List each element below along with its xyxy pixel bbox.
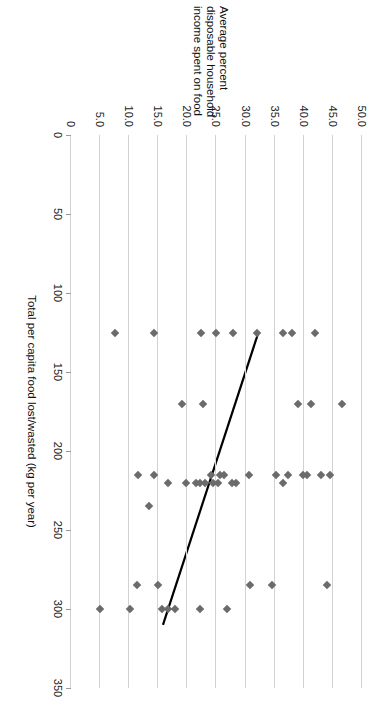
data-point-marker: [197, 328, 205, 336]
x-tick-mark: [66, 372, 71, 373]
data-point-marker: [279, 328, 287, 336]
data-point-marker: [133, 581, 141, 589]
trendline: [71, 135, 362, 688]
y-axis-title-line: Average percent: [217, 6, 230, 130]
data-point-marker: [145, 502, 153, 510]
y-axis-title-line: income spent on food: [191, 6, 204, 130]
x-tick-label: 300: [52, 589, 64, 629]
data-point-marker: [198, 399, 206, 407]
data-point-marker: [294, 399, 302, 407]
data-point-marker: [326, 470, 334, 478]
plot-area: 05.010.015.020.025.030.035.040.045.050.0…: [71, 135, 362, 688]
data-point-marker: [311, 328, 319, 336]
y-tick-label: 15.0: [152, 83, 164, 127]
y-tick-label: 50.0: [356, 83, 368, 127]
x-tick-label: 100: [52, 273, 64, 313]
data-point-marker: [246, 581, 254, 589]
data-point-marker: [223, 605, 231, 613]
y-tick-label: 45.0: [327, 83, 339, 127]
x-tick-label: 50: [52, 194, 64, 234]
data-point-marker: [96, 605, 104, 613]
y-tick-label: 5.0: [94, 83, 106, 127]
gridline-y: [216, 135, 217, 688]
x-axis-title: Total per capita food lost/wasted (kg pe…: [26, 135, 38, 688]
gridline-y: [361, 135, 362, 688]
data-point-marker: [134, 470, 142, 478]
chart-figure: 05.010.015.020.025.030.035.040.045.050.0…: [0, 0, 380, 718]
gridline-y: [274, 135, 275, 688]
data-point-marker: [268, 581, 276, 589]
data-point-marker: [337, 399, 345, 407]
data-point-marker: [284, 470, 292, 478]
x-tick-label: 200: [52, 431, 64, 471]
data-point-marker: [154, 581, 162, 589]
data-point-marker: [177, 399, 185, 407]
y-tick-label: 10.0: [123, 83, 135, 127]
y-axis-title: Average percentdisposable householdincom…: [191, 6, 230, 130]
x-tick-label: 0: [52, 115, 64, 155]
data-point-marker: [317, 470, 325, 478]
x-tick-mark: [66, 688, 71, 689]
y-axis-title-line: disposable household: [204, 6, 217, 130]
gridline-y: [245, 135, 246, 688]
x-tick-label: 150: [52, 352, 64, 392]
x-tick-label: 250: [52, 510, 64, 550]
x-tick-mark: [66, 135, 71, 136]
x-tick-mark: [66, 293, 71, 294]
x-tick-mark: [66, 530, 71, 531]
y-tick-label: 40.0: [298, 83, 310, 127]
y-tick-label: 30.0: [240, 83, 252, 127]
data-point-marker: [196, 605, 204, 613]
data-point-marker: [229, 328, 237, 336]
data-point-marker: [272, 470, 280, 478]
data-point-marker: [253, 328, 261, 336]
data-point-marker: [181, 478, 189, 486]
gridline-y: [186, 135, 187, 688]
y-tick-label: 0: [65, 83, 77, 127]
gridline-y: [303, 135, 304, 688]
gridline-y: [332, 135, 333, 688]
data-point-marker: [212, 328, 220, 336]
data-point-marker: [111, 328, 119, 336]
x-tick-mark: [66, 451, 71, 452]
rotated-chart-canvas: 05.010.015.020.025.030.035.040.045.050.0…: [0, 0, 380, 718]
data-point-marker: [279, 478, 287, 486]
gridline-y: [70, 135, 71, 688]
data-point-marker: [164, 478, 172, 486]
data-point-marker: [206, 470, 214, 478]
y-tick-label: 35.0: [269, 83, 281, 127]
gridline-y: [157, 135, 158, 688]
x-tick-mark: [66, 214, 71, 215]
x-tick-mark: [66, 609, 71, 610]
data-point-marker: [323, 581, 331, 589]
data-point-marker: [288, 328, 296, 336]
data-point-marker: [307, 399, 315, 407]
x-tick-label: 350: [52, 668, 64, 708]
